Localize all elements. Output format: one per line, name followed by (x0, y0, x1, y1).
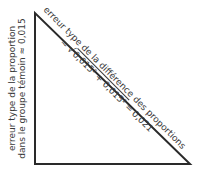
approx-symbol: ≈ (17, 47, 27, 55)
vertical-side-label: erreur type de la proportion dans le gro… (7, 13, 27, 164)
vertical-label-prefix: dans le groupe témoin (17, 57, 27, 158)
standard-error-triangle-diagram: erreur type de la proportion dans le gro… (0, 0, 212, 181)
control-group-se-value: 0,015 (17, 18, 27, 44)
vertical-label-line2: dans le groupe témoin ≈ 0,015 (17, 13, 27, 164)
vertical-label-line1: erreur type de la proportion (7, 13, 17, 164)
